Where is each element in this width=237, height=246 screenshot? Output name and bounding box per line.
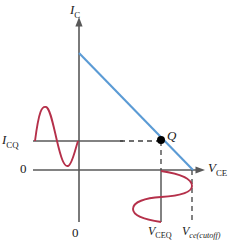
x-axis-label-symbol: V (208, 160, 216, 175)
y-axis-label: IC (70, 3, 80, 19)
x-axis-label: VCE (208, 161, 227, 177)
dc-load-line (79, 53, 193, 170)
icq-label: ICQ (2, 133, 19, 149)
vce-sine-waveform (133, 171, 192, 222)
vce-cutoff-label-subscript: ce(cutoff) (189, 231, 220, 240)
vce-cutoff-label: Vce(cutoff) (182, 225, 221, 241)
x-axis-arrowhead (196, 166, 206, 173)
q-point-label-symbol: Q (167, 128, 176, 143)
q-point-marker (157, 136, 165, 144)
y-axis (75, 17, 82, 222)
graph-canvas (0, 0, 237, 246)
q-point-label: Q (167, 129, 176, 142)
origin-label-x-axis: 0 (72, 226, 79, 239)
x-axis-label-subscript: CE (216, 168, 227, 178)
origin-label-y-axis: 0 (20, 162, 27, 175)
vceq-label-subscript: CEQ (155, 231, 171, 240)
ic-sine-waveform (35, 107, 78, 166)
vceq-label: VCEQ (148, 225, 172, 241)
dc-load-line-figure: IC VCE ICQ 0 0 Q VCEQ Vce(cutoff) (0, 0, 237, 246)
y-axis-label-subscript: C (74, 10, 80, 20)
icq-label-subscript: CQ (6, 140, 18, 150)
x-axis (33, 166, 205, 173)
